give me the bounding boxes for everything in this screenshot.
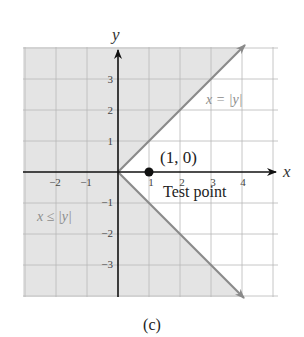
y-tick-label: −3 [101,258,113,270]
y-axis-label: y [110,25,120,44]
y-tick-label: 1 [108,135,114,147]
y-tick-label: −1 [101,196,113,208]
boundary-label: x = |y| [205,92,243,107]
test-point-label: Test point [163,183,227,201]
y-tick-label: 3 [108,73,114,85]
x-tick-label: 1 [148,176,154,188]
x-tick-label: −1 [80,176,92,188]
x-tick-label: −2 [49,176,61,188]
y-tick-label: 2 [108,104,114,116]
region-label: x ≤ |y| [36,209,72,224]
x-axis-label: x [282,162,291,181]
figure-caption: (c) [143,316,161,334]
test-point-marker [145,168,154,177]
y-tick-label: −2 [101,227,113,239]
x-tick-label: 4 [240,176,246,188]
inequality-graph: x y −2 −1 1 2 3 4 3 2 1 −1 −2 −3 x = |y|… [0,0,304,337]
test-point-coords: (1, 0) [160,148,197,167]
